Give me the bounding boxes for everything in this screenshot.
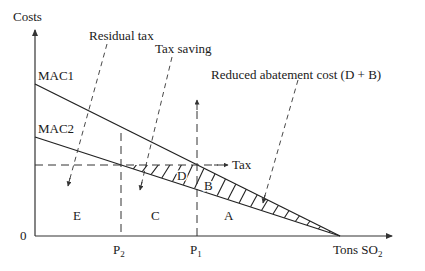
y-axis-label: Costs bbox=[13, 9, 42, 24]
reduced-abatement-label: Reduced abatement cost (D + B) bbox=[211, 67, 381, 82]
svg-text:P1: P1 bbox=[190, 242, 202, 259]
diagram-canvas: Costs 0 Tons SO2 bbox=[0, 0, 425, 271]
region-c-label: C bbox=[151, 208, 160, 223]
p2-tick-label: P2 bbox=[113, 242, 125, 259]
svg-text:P2: P2 bbox=[113, 242, 125, 259]
region-d-label: D bbox=[177, 168, 186, 183]
mac1-label: MAC1 bbox=[38, 68, 74, 83]
tax-label: Tax bbox=[232, 157, 252, 172]
reduced-abatement-pointer bbox=[263, 80, 298, 203]
x-axis-label: Tons SO2 bbox=[333, 242, 382, 259]
region-e-label: E bbox=[73, 208, 81, 223]
region-a-label: A bbox=[224, 208, 234, 223]
origin-label: 0 bbox=[20, 228, 27, 243]
tax-saving-label: Tax saving bbox=[155, 41, 212, 56]
svg-text:Tons SO2: Tons SO2 bbox=[333, 242, 382, 259]
p1-tick-label: P1 bbox=[190, 242, 202, 259]
mac2-label: MAC2 bbox=[38, 121, 74, 136]
region-b-label: B bbox=[204, 178, 213, 193]
residual-tax-label: Residual tax bbox=[89, 28, 154, 43]
